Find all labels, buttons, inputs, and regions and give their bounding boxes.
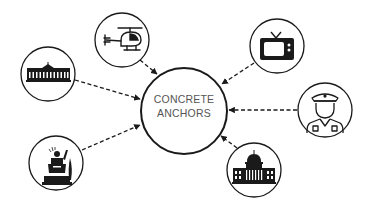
arrow-white-house-to-center — [75, 80, 140, 99]
node-television — [250, 19, 304, 73]
arrow-capitol-to-center — [221, 136, 237, 148]
center-node-label: CONCRETE ANCHORS — [141, 92, 227, 120]
arrow-helicopter-to-center — [140, 60, 157, 74]
node-police-officer — [298, 83, 352, 137]
node-politician-speech — [29, 136, 83, 190]
center-label-line2: ANCHORS — [141, 106, 227, 120]
node-capitol — [227, 143, 281, 197]
node-white-house — [21, 47, 75, 101]
center-label-line1: CONCRETE — [141, 92, 227, 106]
node-helicopter — [95, 13, 149, 67]
arrow-speaker-to-center — [82, 125, 140, 150]
arrow-tv-to-center — [222, 63, 254, 84]
